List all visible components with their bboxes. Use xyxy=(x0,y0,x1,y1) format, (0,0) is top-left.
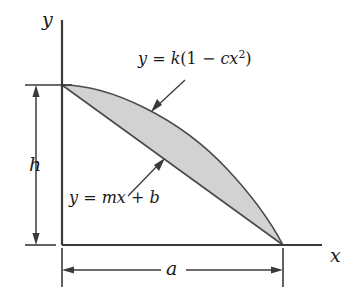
h-dimension-label: h xyxy=(29,155,41,174)
parabola-eqn-c: c xyxy=(220,49,229,68)
parabola-eqn-equals: = xyxy=(152,49,165,68)
line-eqn-m: m xyxy=(102,188,117,207)
straight-line-curve xyxy=(62,85,283,245)
line-eqn-lhs: y xyxy=(69,188,78,207)
line-equation-label: y = mx + b xyxy=(69,190,160,206)
line-eqn-b: b xyxy=(149,188,159,207)
parabola-eqn-lhs: y xyxy=(138,49,147,68)
x-axis-label: x xyxy=(330,246,341,265)
h-arrowhead-bottom xyxy=(32,233,39,245)
y-axis-label: y xyxy=(42,10,53,29)
line-eqn-x: x xyxy=(117,188,126,207)
parabola-eqn-minus: − xyxy=(202,49,215,68)
line-eqn-equals: = xyxy=(83,188,96,207)
parabola-eqn-one: 1 xyxy=(187,49,197,68)
figure-graphic xyxy=(0,0,356,298)
a-arrowhead-left xyxy=(62,266,74,273)
parabola-eqn-close-paren: ) xyxy=(245,49,251,68)
line-eqn-plus: + xyxy=(131,188,144,207)
parabola-eqn-k: k xyxy=(171,49,181,68)
h-arrowhead-top xyxy=(32,85,39,97)
line-leader-arrowhead xyxy=(154,158,165,171)
curve-leader-arrowhead xyxy=(151,99,162,112)
parabola-equation-label: y = k(1 − cx2) xyxy=(138,50,252,67)
a-dimension-label: a xyxy=(166,259,177,278)
figure-container: y x h a y = k(1 − cx2) y = mx + b xyxy=(0,0,356,298)
a-arrowhead-right xyxy=(271,266,283,273)
